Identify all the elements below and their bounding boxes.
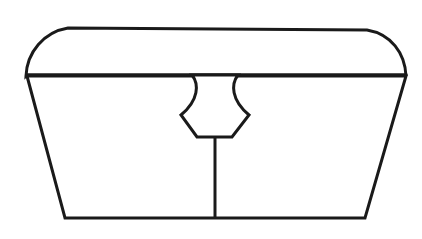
chest-drawing-group (26, 28, 406, 218)
chest-lid-shape (26, 28, 406, 76)
line-drawing-figure: Chest / trunk line drawing Black outline… (0, 0, 422, 239)
